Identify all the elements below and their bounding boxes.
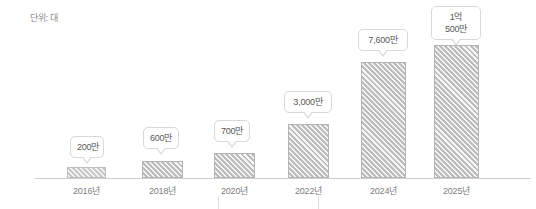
value-callout-text: 700만 — [221, 126, 243, 136]
x-tick-label-2022: 2022년 — [288, 184, 329, 197]
bar-chart: 단위: 대 200만 600만 700만 3,000만 — [0, 0, 536, 209]
value-callout-2022: 3,000만 — [284, 91, 332, 113]
bar-2018 — [142, 161, 183, 178]
value-callout-text-line1: 1억 — [450, 12, 463, 22]
bracket-tick-left — [218, 196, 219, 209]
plot-area: 200만 600만 700만 3,000만 7,600만 1억 500만 — [0, 0, 536, 209]
bar-2020 — [214, 153, 255, 178]
callout-pointer-fill-icon — [82, 155, 92, 162]
value-callout-2024: 7,600만 — [358, 29, 408, 51]
callout-pointer-fill-icon — [227, 139, 237, 146]
value-callout-text: 200만 — [77, 142, 99, 152]
x-tick-label-2020: 2020년 — [214, 184, 255, 197]
bar-2024 — [361, 62, 406, 178]
x-tick-label-2024: 2024년 — [361, 184, 406, 197]
callout-pointer-fill-icon — [451, 37, 461, 44]
value-callout-text-line2: 500만 — [445, 24, 467, 34]
value-callout-2025: 1억 500만 — [431, 6, 481, 40]
x-axis-line — [35, 178, 531, 179]
value-callout-2020: 700만 — [214, 120, 250, 142]
x-tick-label-2018: 2018년 — [142, 184, 183, 197]
bar-2022 — [288, 124, 329, 178]
value-callout-text: 7,600만 — [368, 35, 397, 45]
value-callout-text: 3,000만 — [293, 97, 322, 107]
bracket-tick-right — [318, 196, 319, 209]
value-callout-text: 600만 — [150, 133, 172, 143]
x-tick-label-2016: 2016년 — [67, 184, 106, 197]
bar-2016 — [67, 167, 106, 178]
bar-2025 — [434, 45, 479, 178]
x-tick-label-2025: 2025년 — [434, 184, 479, 197]
value-callout-2018: 600만 — [143, 127, 179, 149]
callout-pointer-fill-icon — [303, 110, 313, 117]
callout-pointer-fill-icon — [378, 48, 388, 55]
callout-pointer-fill-icon — [156, 146, 166, 153]
value-callout-2016: 200만 — [70, 136, 104, 158]
